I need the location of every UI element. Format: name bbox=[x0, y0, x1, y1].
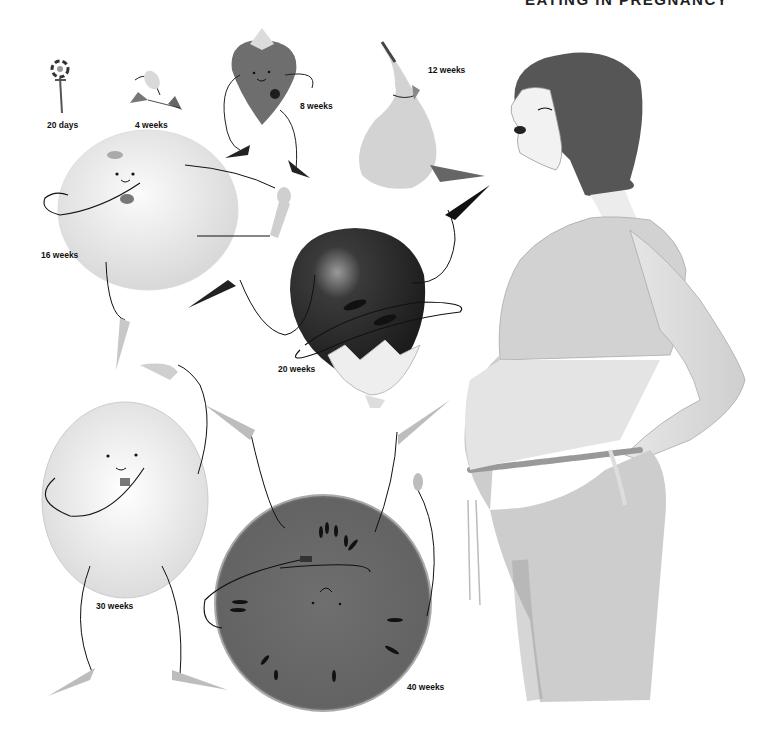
pregnant-woman-figure bbox=[464, 52, 745, 702]
stage-12-weeks-pear-icon bbox=[359, 42, 485, 189]
stage-40-weeks-watermelon-icon bbox=[204, 400, 450, 711]
stage-30-weeks-grapefruit-icon bbox=[42, 364, 228, 696]
stage-16-weeks-orange-icon bbox=[44, 130, 291, 370]
stage-label-40-weeks: 40 weeks bbox=[407, 682, 444, 692]
stage-label-20-days: 20 days bbox=[47, 120, 78, 130]
stage-20-days-icon bbox=[52, 61, 68, 113]
stage-label-20-weeks: 20 weeks bbox=[278, 364, 315, 374]
stage-4-weeks-icon bbox=[130, 68, 182, 110]
stage-label-30-weeks: 30 weeks bbox=[96, 601, 133, 611]
stage-label-4-weeks: 4 weeks bbox=[135, 120, 168, 130]
stage-label-16-weeks: 16 weeks bbox=[41, 250, 78, 260]
illustration bbox=[0, 0, 774, 756]
stage-label-8-weeks: 8 weeks bbox=[300, 101, 333, 111]
stage-label-12-weeks: 12 weeks bbox=[428, 65, 465, 75]
